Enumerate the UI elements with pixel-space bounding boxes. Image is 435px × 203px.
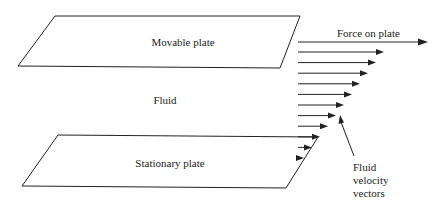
- vectors-label-line1: Fluid: [353, 161, 377, 173]
- velocity-vector-head: [336, 102, 344, 108]
- vectors-pointer-line: [341, 122, 354, 156]
- velocity-vector-head: [368, 60, 376, 66]
- stationary-plate-label: Stationary plate: [135, 157, 204, 169]
- velocity-vector-head: [296, 155, 304, 161]
- force-label: Force on plate: [337, 27, 400, 39]
- velocity-vector-head: [320, 123, 328, 129]
- movable-plate-label: Movable plate: [151, 36, 214, 48]
- velocity-vector-head: [312, 134, 320, 140]
- vectors-pointer-head: [339, 115, 345, 124]
- velocity-vector-head: [360, 70, 368, 76]
- fluid-label: Fluid: [153, 94, 177, 106]
- force-arrow-head: [418, 39, 428, 46]
- velocity-vector-head: [344, 91, 352, 97]
- couette-flow-diagram: Movable plate Fluid Stationary plate For…: [0, 0, 435, 203]
- velocity-vectors: [296, 49, 384, 161]
- velocity-vector-head: [352, 81, 360, 87]
- velocity-vector-head: [304, 144, 312, 150]
- vectors-label-line2: velocity: [353, 174, 389, 186]
- velocity-vector-head: [376, 49, 384, 55]
- vectors-label-line3: vectors: [353, 187, 385, 199]
- velocity-vector-head: [328, 113, 336, 119]
